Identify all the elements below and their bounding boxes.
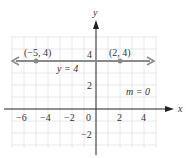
slope-label: m = 0 (126, 86, 150, 97)
point-label-b: (2, 4) (109, 47, 131, 59)
line-equation-label: y = 4 (56, 63, 78, 74)
y-tick-neg2: −2 (81, 129, 92, 140)
point-label-a: (−5, 4) (24, 47, 51, 59)
y-tick-2: 2 (87, 80, 92, 91)
x-axis-label: x (177, 103, 183, 114)
x-tick-2: 2 (117, 112, 122, 123)
x-axis-arrow-icon (165, 106, 174, 112)
point-neg5-4 (34, 59, 39, 64)
coordinate-plane: x y −6 −4 −2 0 2 4 4 2 −2 (−5, 4) (2, 4)… (0, 0, 186, 158)
y-axis-label: y (92, 7, 98, 18)
point-2-4 (118, 59, 123, 64)
x-tick-neg6: −6 (16, 112, 27, 123)
line-y-equals-4 (12, 57, 154, 65)
x-tick-4: 4 (141, 112, 146, 123)
y-tick-4: 4 (87, 49, 92, 60)
x-tick-neg4: −4 (40, 112, 51, 123)
x-tick-0: 0 (86, 112, 91, 123)
y-axis-arrow-icon (93, 20, 99, 29)
x-tick-neg2: −2 (64, 112, 75, 123)
